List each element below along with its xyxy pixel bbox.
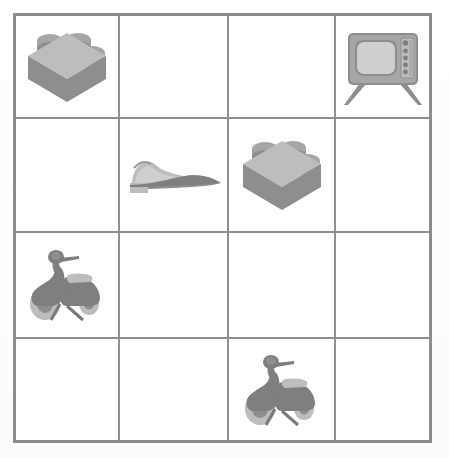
lego-brick-icon [241,136,323,214]
grid-cell-r1c2[interactable] [120,16,229,119]
grid-cell-r4c2[interactable] [120,339,229,440]
grid-cell-r1c3[interactable] [229,16,336,119]
object-grid [13,13,432,443]
grid-cell-r3c2[interactable] [120,233,229,339]
grid-cell-r4c1[interactable] [16,339,120,440]
grid-cell-r2c4[interactable] [336,119,429,233]
grid-cell-r4c3[interactable] [229,339,336,440]
television-icon [340,27,426,107]
scooter-icon [242,351,322,429]
grid-cell-r3c3[interactable] [229,233,336,339]
dress-shoe-icon [125,150,223,200]
scooter-icon [27,246,107,324]
grid-cell-r4c4[interactable] [336,339,429,440]
grid-cell-r3c1[interactable] [16,233,120,339]
grid-cell-r1c4[interactable] [336,16,429,119]
scan-artifact [318,448,430,454]
grid-cell-r1c1[interactable] [16,16,120,119]
page-root [0,0,449,458]
grid-cell-r2c2[interactable] [120,119,229,233]
lego-brick-icon [26,28,108,106]
grid-cell-r2c3[interactable] [229,119,336,233]
grid-cell-r3c4[interactable] [336,233,429,339]
grid-cell-r2c1[interactable] [16,119,120,233]
